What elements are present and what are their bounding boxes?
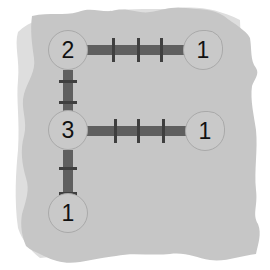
board-background [0, 0, 270, 270]
island-node-2[interactable]: 2 [48, 30, 88, 70]
puzzle-board: 2 1 3 1 1 [0, 0, 270, 270]
island-node-1-top-right[interactable]: 1 [183, 30, 223, 70]
island-node-3[interactable]: 3 [48, 110, 88, 150]
island-number: 1 [197, 39, 210, 62]
island-number: 1 [199, 120, 212, 143]
island-node-1-bottom[interactable]: 1 [48, 193, 88, 233]
island-node-1-middle-right[interactable]: 1 [185, 111, 225, 151]
island-number: 1 [62, 202, 75, 225]
island-number: 2 [62, 39, 75, 62]
island-number: 3 [62, 119, 75, 142]
